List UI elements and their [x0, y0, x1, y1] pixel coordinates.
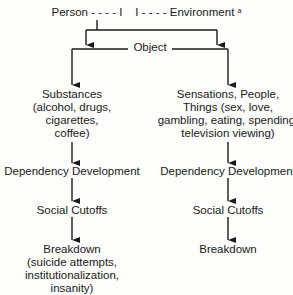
left-top-line: coffee): [12, 127, 132, 140]
left-breakdown-line: Breakdown: [10, 243, 134, 256]
right-top-line: Things (sex, love,: [156, 101, 293, 114]
left-top-line: Substances: [12, 88, 132, 101]
person-label: Person: [52, 6, 88, 18]
left-breakdown-line: (suicide attempts,: [10, 256, 134, 269]
right-breakdown-node: Breakdown: [168, 243, 288, 256]
left-breakdown-node: Breakdown (suicide attempts, institution…: [10, 243, 134, 295]
right-top-line: Sensations, People,: [156, 88, 293, 101]
left-breakdown-line: institutionalization,: [10, 269, 134, 282]
left-top-node: Substances (alcohol, drugs, cigarettes, …: [12, 88, 132, 140]
footnote-marker: a: [238, 7, 242, 14]
left-top-line: cigarettes,: [12, 114, 132, 127]
right-dependency-node: Dependency Development: [156, 165, 293, 178]
right-top-node: Sensations, People, Things (sex, love, g…: [156, 88, 293, 140]
left-cutoffs-node: Social Cutoffs: [12, 204, 132, 217]
left-top-line: (alcohol, drugs,: [12, 101, 132, 114]
header-row: Person - - - - I I - - - - Environment a: [0, 6, 293, 19]
dash-left: - - - - I: [91, 6, 122, 18]
right-top-line: television viewing): [156, 127, 293, 140]
right-cutoffs-node: Social Cutoffs: [168, 204, 288, 217]
dash-right: I - - - -: [135, 6, 166, 18]
right-breakdown-line: Breakdown: [168, 243, 288, 256]
object-label: Object: [128, 41, 172, 54]
environment-label: Environment: [170, 6, 235, 18]
left-dependency-node: Dependency Development: [0, 165, 144, 178]
left-breakdown-line: insanity): [10, 282, 134, 295]
right-top-line: gambling, eating, spending,: [156, 114, 293, 127]
